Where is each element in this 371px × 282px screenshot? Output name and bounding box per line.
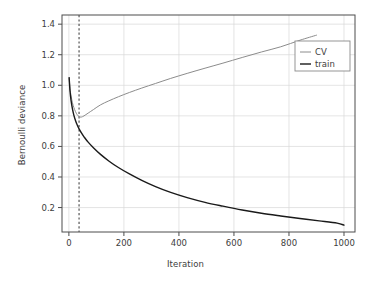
y-tick-label: 0.4 — [41, 172, 55, 182]
x-axis-label: Iteration — [0, 259, 371, 269]
x-tick-label: 600 — [226, 238, 242, 248]
x-tick-label: 1000 — [333, 238, 355, 248]
legend-label-train: train — [315, 59, 335, 69]
y-axis-ticks: 0.20.40.60.81.01.21.4 — [41, 19, 62, 212]
y-tick-label: 1.2 — [41, 50, 55, 60]
chart-figure: 02004006008001000 0.20.40.60.81.01.21.4 … — [0, 0, 371, 282]
y-axis-label: Bernoulli deviance — [17, 55, 27, 195]
y-tick-label: 0.8 — [41, 111, 55, 121]
x-tick-label: 200 — [116, 238, 132, 248]
deviance-vs-iteration-chart: 02004006008001000 0.20.40.60.81.01.21.4 … — [0, 0, 371, 282]
y-tick-label: 0.2 — [41, 203, 55, 213]
legend-label-cv: CV — [315, 47, 327, 57]
chart-legend[interactable]: CVtrain — [295, 41, 350, 71]
x-tick-label: 800 — [281, 238, 297, 248]
y-tick-label: 1.4 — [41, 19, 55, 29]
x-tick-label: 400 — [171, 238, 187, 248]
x-axis-ticks: 02004006008001000 — [66, 232, 355, 248]
y-tick-label: 1.0 — [41, 80, 55, 90]
y-tick-label: 0.6 — [41, 141, 55, 151]
x-tick-label: 0 — [66, 238, 71, 248]
